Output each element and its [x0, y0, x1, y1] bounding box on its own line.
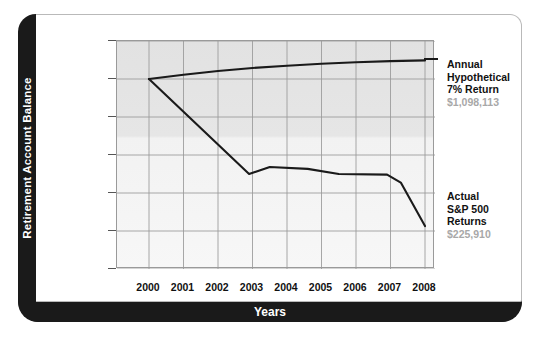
legend-line-1: Annual — [447, 58, 510, 71]
legend-line-3: Returns — [447, 215, 491, 228]
x-tick-label: 2008 — [404, 281, 444, 293]
legend-line-1: Actual — [447, 190, 491, 203]
legend-value: $1,098,113 — [447, 96, 510, 109]
legend-line-2: Hypothetical — [447, 71, 510, 84]
x-axis-ticks: 200020012002200320042005200620072008 — [0, 0, 540, 345]
legend-hypothetical-7pct: Annual Hypothetical 7% Return $1,098,113 — [447, 58, 510, 108]
legend-line-2: S&P 500 — [447, 203, 491, 216]
legend-sp500-actual: Actual S&P 500 Returns $225,910 — [447, 190, 491, 240]
legend-value: $225,910 — [447, 228, 491, 241]
legend-line-3: 7% Return — [447, 83, 510, 96]
legend-connector-line — [424, 58, 438, 60]
chart-figure: Retirement Account Balance Years $1,200,… — [0, 0, 540, 345]
